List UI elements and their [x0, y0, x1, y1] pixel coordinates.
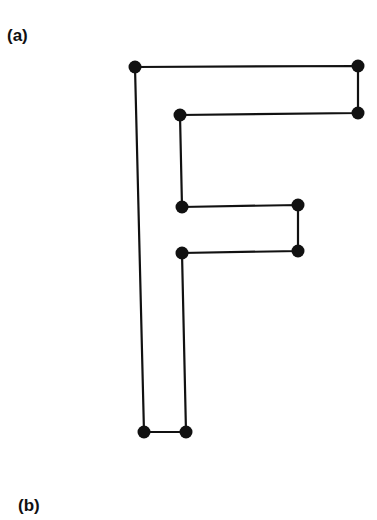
vertex-node-4 [176, 201, 189, 214]
vertex-node-6 [292, 245, 305, 258]
vertex-nodes [129, 60, 365, 439]
vertex-node-8 [180, 426, 193, 439]
vertex-node-5 [292, 199, 305, 212]
vertex-node-9 [138, 426, 151, 439]
vertex-node-1 [352, 60, 365, 73]
polygon-outline [135, 66, 358, 432]
vertex-node-0 [129, 61, 142, 74]
vertex-node-7 [176, 247, 189, 260]
vertex-node-3 [174, 109, 187, 122]
vertex-node-2 [352, 107, 365, 120]
letter-f-polygon-diagram [0, 0, 377, 520]
